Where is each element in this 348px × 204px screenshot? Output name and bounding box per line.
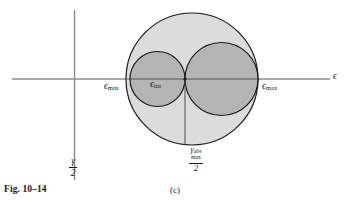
figure-container: ϵmin ϵint ϵmax ϵ γabs max 2 γ 2 Fig. 10–… (0, 0, 348, 204)
gamma-abs-max-fraction: γabs max 2 (189, 146, 204, 173)
x-axis-label: ϵ (333, 72, 337, 82)
gamma-half-fraction: γ 2 (69, 157, 77, 178)
gamma-half-numerator: γ (69, 157, 77, 168)
figure-canvas (0, 0, 348, 204)
epsilon-max-label: ϵmax (262, 82, 277, 92)
figure-caption: Fig. 10–14 (4, 185, 47, 195)
gamma-half-denominator: 2 (69, 168, 77, 178)
epsilon-min-label: ϵmin (104, 82, 118, 92)
panel-label: (c) (170, 186, 180, 195)
gamma-abs-max-numerator: γabs max (189, 146, 204, 164)
gamma-abs-max-denominator: 2 (189, 164, 204, 173)
epsilon-min-subscript: min (108, 84, 119, 91)
epsilon-max-subscript: max (266, 84, 278, 91)
gamma-abs-max-stack: γabs max (191, 146, 202, 161)
epsilon-int-subscript: int (154, 82, 161, 89)
gamma-max-subscript: max (191, 155, 202, 161)
epsilon-int-label: ϵint (150, 80, 161, 90)
origin-dot (183, 77, 186, 80)
gamma-abs-max-over-2-label: γabs max 2 (176, 146, 216, 173)
y-axis-label: γ 2 (62, 157, 84, 178)
